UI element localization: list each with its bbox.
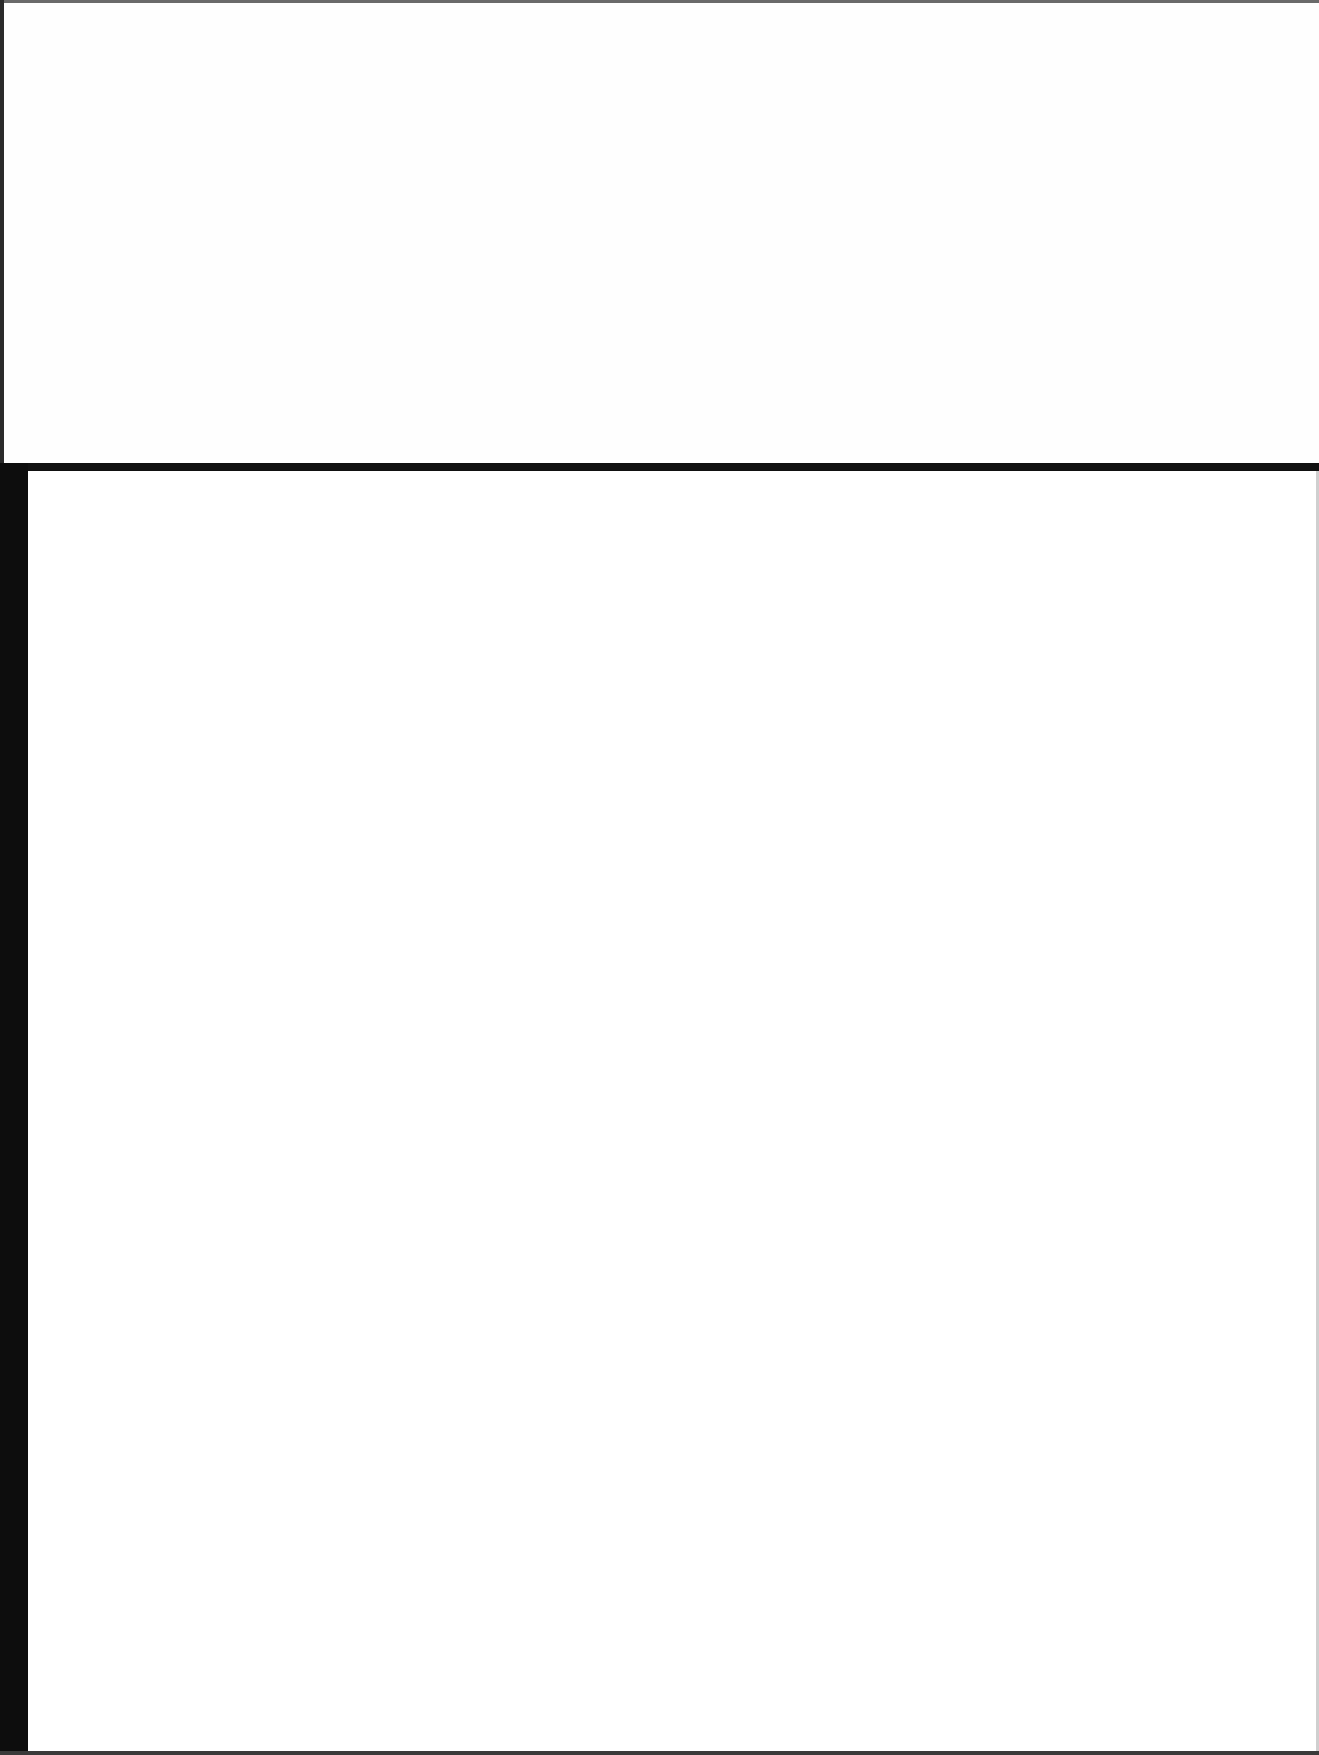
page-bottom-edge xyxy=(0,1751,1319,1755)
horizontal-divider-rule xyxy=(0,463,1319,471)
lower-blank-region xyxy=(28,471,1319,1751)
upper-blank-region xyxy=(4,3,1319,463)
left-vertical-bar xyxy=(0,463,28,1755)
